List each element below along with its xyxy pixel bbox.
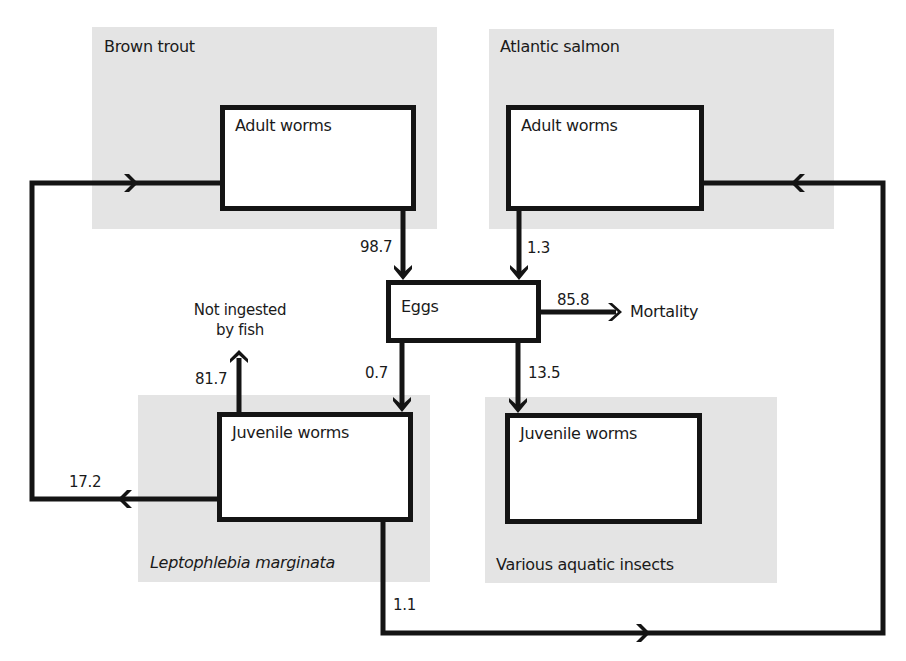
- node-label: Adult worms: [521, 116, 618, 135]
- edge-value-lm-bt: 17.2: [69, 473, 101, 491]
- edge-value-lm-as: 1.1: [393, 596, 416, 614]
- edge-value-eggs-lm: 0.7: [365, 364, 388, 382]
- edge-lm-to-as: [383, 183, 883, 633]
- edge-value-as-eggs: 1.3: [527, 239, 550, 257]
- node-as-adult-worms: Adult worms: [506, 105, 704, 211]
- node-label: Juvenile worms: [520, 424, 637, 443]
- node-label: Juvenile worms: [232, 423, 349, 442]
- outcome-line-1: Not ingested: [185, 300, 295, 320]
- node-lm-juvenile-worms: Juvenile worms: [217, 412, 413, 522]
- node-ai-juvenile-worms: Juvenile worms: [505, 413, 702, 524]
- node-eggs: Eggs: [386, 280, 541, 343]
- edge-value-mortality: 85.8: [557, 291, 589, 309]
- node-label: Adult worms: [235, 116, 332, 135]
- edge-value-eggs-ai: 13.5: [528, 364, 560, 382]
- outcome-mortality: Mortality: [630, 302, 698, 321]
- edge-value-not-ingested: 81.7: [195, 370, 227, 388]
- edge-value-bt-eggs: 98.7: [360, 238, 392, 256]
- outcome-not-ingested: Not ingested by fish: [185, 300, 295, 340]
- node-label: Eggs: [401, 297, 439, 316]
- node-bt-adult-worms: Adult worms: [220, 105, 416, 211]
- edge-lm-to-bt: [32, 183, 220, 499]
- outcome-line-2: by fish: [185, 320, 295, 340]
